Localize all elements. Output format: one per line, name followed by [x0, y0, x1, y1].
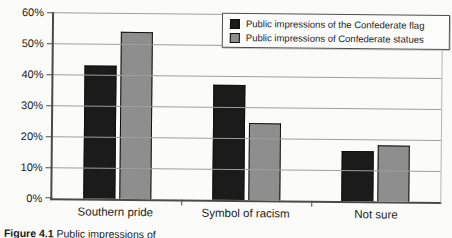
y-axis-label-0: 0% [26, 192, 42, 204]
y-axis-label-30: 30% [21, 99, 43, 111]
bar-series1-southern-pride [119, 31, 153, 199]
bar-series0-not-sure [342, 151, 374, 201]
y-axis-label-20: 20% [21, 130, 43, 142]
legend-label-flag: Public impressions of the Confederate fl… [246, 18, 425, 31]
x-axis-separator-1 [182, 199, 183, 205]
chart-figure: 0%10%20%30%40%50%60% Public impressions … [0, 0, 452, 238]
y-axis-label-40: 40% [21, 68, 43, 80]
x-label-not-sure: Not sure [311, 208, 441, 221]
x-label-symbol-of-racism: Symbol of racism [180, 206, 310, 219]
y-axis-label-60: 60% [22, 6, 44, 18]
figure-caption: Figure 4.1 Public impressions of [4, 227, 156, 238]
y-axis-tick-0 [45, 197, 52, 198]
y-axis-tick-50 [47, 43, 54, 44]
figure-caption-text: Public impressions of [56, 227, 155, 238]
bar-series1-not-sure [378, 146, 411, 202]
y-axis-tick-20 [46, 136, 53, 137]
legend-label-statues: Public impressions of Confederate statue… [246, 32, 424, 45]
bar-series0-symbol-of-racism [212, 85, 245, 200]
y-axis-tick-40 [46, 74, 53, 75]
y-axis-label-50: 50% [22, 37, 44, 49]
figure-caption-number: Figure 4.1 [4, 227, 54, 238]
y-axis-tick-10 [46, 167, 53, 168]
scanned-figure-page: 0%10%20%30%40%50%60% Public impressions … [0, 0, 452, 238]
legend-swatch-flag [230, 18, 240, 28]
y-axis-tick-60 [47, 12, 54, 13]
bar-series0-southern-pride [83, 65, 116, 199]
legend-entry-statues: Public impressions of Confederate statue… [230, 32, 444, 45]
y-axis-label-10: 10% [21, 161, 43, 173]
x-label-southern-pride: Southern pride [50, 205, 180, 218]
bar-series1-symbol-of-racism [248, 123, 281, 201]
x-axis-separator-2 [311, 201, 312, 207]
legend-entry-flag: Public impressions of the Confederate fl… [230, 18, 444, 31]
legend: Public impressions of the Confederate fl… [222, 13, 450, 50]
x-axis-labels: Southern pride Symbol of racism Not sure [50, 205, 441, 221]
y-axis-tick-30 [46, 105, 53, 106]
legend-swatch-statues [230, 32, 240, 42]
